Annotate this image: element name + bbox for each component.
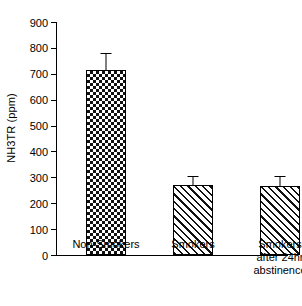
y-axis-tick: 500 bbox=[51, 126, 56, 127]
y-axis-tick-label: 300 bbox=[30, 172, 48, 184]
y-axis-tick-label: 600 bbox=[30, 94, 48, 106]
y-axis-tick-label: 100 bbox=[30, 224, 48, 236]
y-axis-tick: 300 bbox=[51, 177, 56, 178]
error-bar-cap bbox=[275, 176, 286, 177]
bar bbox=[86, 70, 126, 255]
error-bar-stem bbox=[193, 176, 194, 185]
plot-area: 9008007006005004003002001000 bbox=[56, 22, 288, 256]
x-axis-label-line: abstinence bbox=[235, 264, 302, 277]
y-axis-title: NH3TR (ppm) bbox=[0, 0, 22, 256]
x-axis-label: Smokers bbox=[148, 238, 238, 251]
y-axis-line bbox=[56, 22, 57, 256]
y-axis-tick: 400 bbox=[51, 151, 56, 152]
y-axis-title-label: NH3TR (ppm) bbox=[5, 93, 17, 163]
y-axis-tick-label: 400 bbox=[30, 146, 48, 158]
y-axis-tick: 900 bbox=[51, 22, 56, 23]
error-bar bbox=[86, 53, 126, 70]
error-bar bbox=[173, 176, 213, 185]
y-axis-tick-label: 800 bbox=[30, 42, 48, 54]
y-axis-tick: 600 bbox=[51, 100, 56, 101]
y-axis-tick: 700 bbox=[51, 74, 56, 75]
x-axis-label: Non-Smokers bbox=[61, 238, 151, 251]
error-bar-cap bbox=[188, 176, 199, 177]
y-axis-tick: 0 bbox=[51, 255, 56, 256]
error-bar-stem bbox=[106, 53, 107, 70]
error-bar bbox=[260, 176, 300, 186]
x-axis-label-line: Smokers bbox=[235, 238, 302, 251]
x-axis-label-line: Smokers bbox=[148, 238, 238, 251]
y-axis-tick-label: 0 bbox=[42, 250, 48, 262]
y-axis-tick-label: 900 bbox=[30, 17, 48, 29]
y-axis-tick-label: 500 bbox=[30, 120, 48, 132]
bar-chart: NH3TR (ppm) 9008007006005004003002001000… bbox=[0, 0, 302, 306]
y-axis-tick-label: 700 bbox=[30, 68, 48, 80]
x-axis-label-line: Non-Smokers bbox=[61, 238, 151, 251]
y-axis-tick: 800 bbox=[51, 48, 56, 49]
error-bar-cap bbox=[101, 53, 112, 54]
y-axis-tick-label: 200 bbox=[30, 198, 48, 210]
error-bar-stem bbox=[280, 176, 281, 186]
x-axis-label-line: after 24hr bbox=[235, 251, 302, 264]
y-axis-tick: 100 bbox=[51, 229, 56, 230]
x-axis-label: Smokersafter 24hrabstinence bbox=[235, 238, 302, 277]
y-axis-tick: 200 bbox=[51, 203, 56, 204]
